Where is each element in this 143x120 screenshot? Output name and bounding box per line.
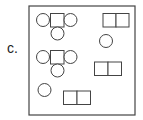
square-shape: [51, 14, 65, 28]
circle-shape: [51, 27, 64, 40]
square-shape: [116, 14, 129, 28]
square-shape: [108, 62, 122, 76]
circle-shape: [100, 35, 113, 48]
square-shape: [64, 91, 78, 105]
square-shape: [103, 14, 116, 28]
square-shape: [95, 62, 109, 76]
circle-shape: [38, 84, 51, 97]
shape-diagram: [0, 0, 143, 120]
circle-shape: [37, 51, 50, 64]
circle-shape: [64, 14, 77, 27]
circle-shape: [37, 14, 50, 27]
circle-shape: [64, 51, 77, 64]
circle-shape: [51, 64, 64, 77]
square-shape: [77, 91, 91, 105]
square-shape: [51, 51, 65, 65]
